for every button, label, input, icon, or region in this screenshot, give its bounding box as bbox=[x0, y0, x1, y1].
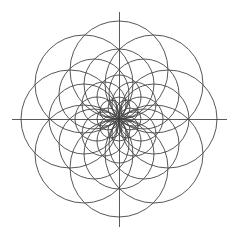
rosette-diagram bbox=[0, 0, 239, 239]
center-point bbox=[118, 118, 120, 120]
figure-canvas bbox=[0, 0, 239, 239]
